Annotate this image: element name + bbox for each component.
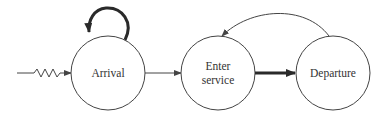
node-enter-service-label-line1: Enter <box>206 60 231 72</box>
edge-arrival-self-loop <box>89 8 128 40</box>
node-enter-service-label-line2: service <box>202 74 235 86</box>
edge-departure-to-enter-service <box>222 13 329 36</box>
edge-external-to-arrival <box>17 69 71 77</box>
node-enter-service: Enter service <box>181 36 255 110</box>
node-arrival: Arrival <box>71 36 145 110</box>
node-arrival-label: Arrival <box>91 67 124 79</box>
node-departure-label: Departure <box>310 67 356 80</box>
event-graph-diagram: Arrival Enter service Departure <box>0 0 384 116</box>
node-departure: Departure <box>296 36 370 110</box>
